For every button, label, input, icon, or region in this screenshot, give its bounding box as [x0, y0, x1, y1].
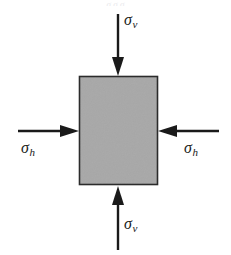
- label-sigma-v-bottom: σv: [124, 216, 137, 232]
- sigma-symbol: σ: [124, 215, 132, 232]
- stress-element-figure: σ σ σ: [0, 0, 231, 255]
- sigma-symbol: σ: [21, 139, 29, 156]
- sigma-subscript: v: [133, 18, 138, 30]
- sigma-subscript: h: [30, 146, 36, 158]
- sigma-symbol: σ: [184, 139, 192, 156]
- label-sigma-h-right: σh: [184, 140, 198, 156]
- arrow-sigma-v-bottom: [112, 186, 124, 250]
- sigma-subscript: v: [133, 222, 138, 234]
- label-sigma-v-top: σv: [124, 12, 137, 28]
- arrow-sigma-h-right: [158, 125, 219, 137]
- stress-diagram-canvas: [0, 0, 231, 255]
- arrow-sigma-v-top: [112, 14, 124, 76]
- sigma-symbol: σ: [124, 11, 132, 28]
- sigma-subscript: h: [193, 146, 199, 158]
- label-sigma-h-left: σh: [21, 140, 35, 156]
- arrow-sigma-h-left: [18, 125, 79, 137]
- soil-element-texture: [80, 77, 157, 184]
